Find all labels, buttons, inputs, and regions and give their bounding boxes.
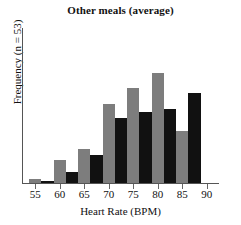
histogram-bar [29,179,41,183]
histogram-bar [90,155,102,183]
x-axis-tick-labels: 5560657075808590 [23,188,219,204]
histogram-bar [41,181,53,183]
x-axis-tick-label: 90 [195,188,219,200]
x-axis-tick-label: 85 [170,188,194,200]
histogram-bar [66,172,78,183]
histogram-bar [54,160,66,183]
x-axis-tick-label: 60 [48,188,72,200]
histogram-bar [127,88,139,183]
x-axis-tick-label: 70 [97,188,121,200]
histogram-bar [152,73,164,183]
x-axis-tick-label: 55 [23,188,47,200]
histogram-bar [78,149,90,183]
x-axis-tick-label: 75 [121,188,145,200]
x-axis-label: Heart Rate (BPM) [0,205,241,217]
plot-area [23,28,219,183]
histogram-bar [103,104,115,183]
histogram-bar [188,93,200,183]
chart-title: Other meals (average) [0,4,241,16]
histogram-bar [139,112,151,183]
histogram-bar [115,118,127,183]
histogram-bar [176,131,188,183]
x-axis-tick-label: 80 [146,188,170,200]
x-axis-tick-label: 65 [72,188,96,200]
histogram-figure: Other meals (average) Frequency (n = 53)… [0,0,241,225]
histogram-bar [164,109,176,183]
